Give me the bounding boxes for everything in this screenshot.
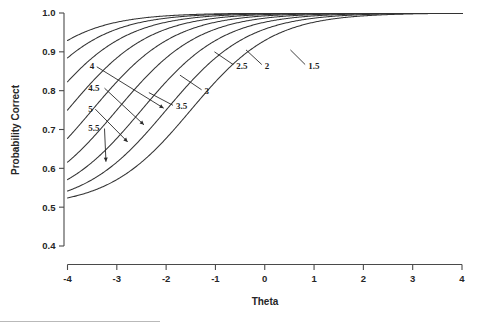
- x-tick-label: 0: [262, 273, 267, 284]
- x-tick-label: -4: [63, 273, 72, 284]
- x-tick-label: 4: [459, 273, 465, 284]
- curve-label-3: 3: [205, 86, 210, 96]
- y-tick-label: 0.7: [42, 124, 55, 135]
- x-tick-label: 1: [311, 273, 317, 284]
- y-tick-label: 0.6: [42, 163, 55, 174]
- y-tick-label: 0.4: [42, 240, 56, 251]
- x-tick-label: -1: [211, 273, 220, 284]
- probability-correct-line-chart: 0.40.50.60.70.80.91.0 -4-3-2-101234 44.5…: [0, 0, 478, 323]
- x-tick-label: 3: [410, 273, 415, 284]
- chart-figure: 0.40.50.60.70.80.91.0 -4-3-2-101234 44.5…: [0, 0, 478, 323]
- curve-label-2-5: 2.5: [236, 61, 248, 71]
- curve-label-3-5: 3.5: [176, 101, 188, 111]
- curve-label-4-5: 4.5: [88, 83, 100, 93]
- x-tick-label: -3: [113, 273, 121, 284]
- y-tick-label: 0.8: [42, 85, 55, 96]
- x-axis-title: Theta: [252, 296, 279, 307]
- curve-label-5-5: 5.5: [88, 123, 100, 133]
- curve-label-5: 5: [88, 104, 93, 114]
- curve-label-4: 4: [90, 61, 95, 71]
- x-tick-label: -2: [162, 273, 170, 284]
- curve-label-2: 2: [265, 61, 270, 71]
- y-axis-title: Probability Correct: [10, 84, 21, 175]
- curve-label-1-5: 1.5: [308, 61, 320, 71]
- y-tick-label: 0.5: [42, 202, 56, 213]
- y-tick-label: 1.0: [42, 7, 55, 18]
- x-tick-label: 2: [361, 273, 366, 284]
- y-tick-label: 0.9: [42, 46, 55, 57]
